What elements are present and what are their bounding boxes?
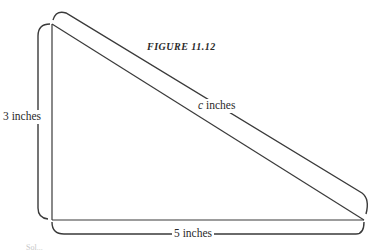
triangle-diagram xyxy=(0,0,379,252)
triangle-hypotenuse xyxy=(52,24,364,220)
triangle xyxy=(52,24,364,220)
height-label: 3 inches xyxy=(2,110,42,124)
hypotenuse-label: c inches xyxy=(196,99,237,113)
base-label: 5 inches xyxy=(172,228,214,240)
hypotenuse-unit: inches xyxy=(203,99,235,111)
figure-title: FIGURE 11.12 xyxy=(147,42,216,52)
footer-faint-text: Sol... xyxy=(26,243,43,252)
